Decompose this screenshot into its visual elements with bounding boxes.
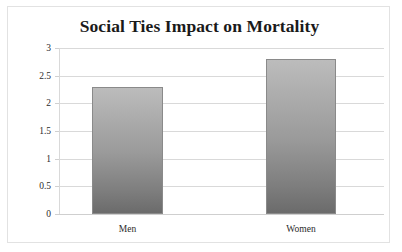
category-label-women: Women	[256, 225, 346, 235]
y-tick-label-1: 1	[11, 155, 51, 165]
y-tick-label-0-5: 0.5	[11, 182, 51, 192]
bar-women[interactable]	[266, 59, 336, 214]
y-axis-tick-labels: 3 2.5 2 1.5 1 0.5 0	[8, 7, 51, 244]
category-axis: Men Women	[59, 220, 384, 240]
y-tick-label-2-5: 2.5	[11, 72, 51, 82]
chart-title: Social Ties Impact on Mortality	[8, 16, 391, 37]
y-tick-label-3: 3	[11, 44, 51, 54]
bar-men[interactable]	[92, 87, 163, 214]
plot-area	[59, 48, 384, 214]
y-tick-label-2: 2	[11, 99, 51, 109]
y-tick-label-0: 0	[11, 210, 51, 220]
y-tick-label-1-5: 1.5	[11, 127, 51, 137]
chart-frame: Social Ties Impact on Mortality 3 2.5 2 …	[7, 6, 390, 243]
category-label-men: Men	[83, 225, 172, 235]
gridline-0-baseline	[59, 214, 384, 215]
gridline-3	[59, 48, 384, 49]
